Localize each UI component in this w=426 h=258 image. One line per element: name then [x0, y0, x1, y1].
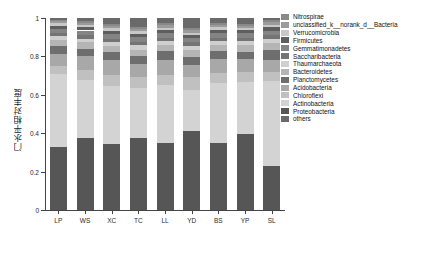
bar-segment — [210, 27, 227, 30]
bar-segment — [210, 73, 227, 84]
x-tick-label: XC — [107, 217, 116, 224]
x-tick-label: YP — [241, 217, 250, 224]
legend-label: unclassified_k__norank_d__Bacteria — [293, 21, 397, 28]
bar-segment — [237, 26, 254, 28]
bar-segment — [130, 138, 147, 210]
bar-segment — [183, 90, 200, 131]
bar-bs — [210, 18, 227, 210]
bar-tc — [130, 18, 147, 210]
legend-swatch — [281, 61, 289, 67]
bar-segment — [130, 45, 147, 49]
bar-segment — [157, 143, 174, 210]
bar-segment — [183, 50, 200, 58]
bar-segment — [50, 74, 67, 147]
bar-segment — [130, 29, 147, 32]
legend-swatch — [281, 100, 289, 106]
legend-swatch — [281, 77, 289, 83]
legend-label: Chloroflexi — [293, 92, 323, 99]
y-tick-label: 0 — [35, 207, 39, 214]
bar-segment — [130, 50, 147, 57]
bar-segment — [183, 18, 200, 28]
bar-ws — [77, 18, 94, 210]
x-tick-label: BS — [214, 217, 223, 224]
bar-segment — [50, 54, 67, 66]
legend-item: Gemmatimonadetes — [281, 44, 425, 52]
bar-segment — [157, 85, 174, 143]
x-tick-label: TC — [134, 217, 143, 224]
y-axis-line — [45, 18, 46, 210]
bar-segment — [183, 65, 200, 77]
bar-segment — [210, 83, 227, 143]
chart-figure: 门水平相对丰度 00.20.40.60.81 LPWSXCTCLLYDBSYPS… — [0, 0, 426, 258]
bar-segment — [130, 18, 147, 27]
bar-segment — [210, 25, 227, 27]
legend-swatch — [281, 69, 289, 75]
bar-segment — [157, 28, 174, 30]
bar-segment — [263, 166, 280, 210]
y-tick — [41, 56, 45, 57]
legend-item: Bacteroidetes — [281, 68, 425, 76]
legend-label: Gemmatimonadetes — [293, 45, 351, 52]
y-tick — [41, 95, 45, 96]
bar-segment — [103, 86, 120, 144]
legend-label: Nitrospirae — [293, 13, 324, 20]
bar-segment — [183, 30, 200, 32]
bar-segment — [50, 23, 67, 25]
bar-segment — [263, 22, 280, 25]
legend-swatch — [281, 53, 289, 59]
bar-segment — [130, 64, 147, 76]
bar-segment — [237, 82, 254, 134]
bar-segment — [263, 35, 280, 39]
legend-item: unclassified_k__norank_d__Bacteria — [281, 21, 425, 29]
bar-segment — [103, 42, 120, 46]
x-tick-label: SL — [268, 217, 276, 224]
bar-segment — [210, 23, 227, 25]
x-tick — [58, 210, 59, 214]
bar-segment — [50, 21, 67, 23]
bar-segment — [237, 52, 254, 60]
y-tick — [41, 210, 45, 211]
legend-label: others — [293, 115, 311, 122]
bar-segment — [237, 38, 254, 41]
bar-segment — [263, 27, 280, 30]
bar-segment — [77, 39, 94, 42]
bar-segment — [237, 18, 254, 24]
bar-segment — [183, 42, 200, 46]
legend: Nitrospiraeunclassified_k__norank_d__Bac… — [281, 13, 425, 123]
y-tick-label: 0.8 — [30, 53, 39, 60]
bar-segment — [183, 77, 200, 90]
legend-swatch — [281, 116, 289, 122]
legend-label: Proteobacteria — [293, 108, 335, 115]
y-tick — [41, 172, 45, 173]
bar-segment — [103, 60, 120, 74]
bar-segment — [157, 45, 174, 51]
bar-segment — [50, 26, 67, 29]
legend-label: Firmicutes — [293, 37, 322, 44]
x-tick — [218, 210, 219, 214]
bar-segment — [237, 72, 254, 83]
bar-segment — [157, 41, 174, 45]
bar-segment — [77, 70, 94, 81]
bar-segment — [157, 18, 174, 23]
bar-segment — [77, 80, 94, 138]
legend-swatch — [281, 85, 289, 91]
y-tick-label: 0.2 — [30, 168, 39, 175]
x-tick — [192, 210, 193, 214]
bar-segment — [157, 23, 174, 25]
x-tick — [165, 210, 166, 214]
bar-segment — [50, 20, 67, 22]
bar-ll — [157, 18, 174, 210]
plot-area: 00.20.40.60.81 LPWSXCTCLLYDBSYPSL — [45, 18, 285, 210]
bar-segment — [77, 31, 94, 35]
bar-segment — [77, 56, 94, 69]
x-tick — [272, 210, 273, 214]
bar-segment — [130, 34, 147, 37]
legend-swatch — [281, 108, 289, 114]
legend-item: Verrucomicrobia — [281, 29, 425, 37]
bar-sl — [263, 18, 280, 210]
bar-segment — [103, 24, 120, 26]
bar-segment — [263, 81, 280, 165]
bar-segment — [263, 43, 280, 50]
bar-segment — [183, 35, 200, 38]
bar-segment — [237, 30, 254, 33]
